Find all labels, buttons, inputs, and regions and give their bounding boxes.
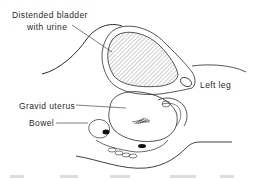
anatomy-diagram: Distended bladder with urine Left leg Gr… [0,0,257,180]
back-outline [76,142,232,168]
bowel-dark-1 [103,130,110,135]
label-bladder-line2: with urine [27,22,67,32]
bowel-loops [89,120,110,139]
label-left-leg: Left leg [200,80,231,90]
leader-bladder [72,25,112,52]
left-leg-line [192,65,246,72]
symphysis-oval [179,76,193,89]
leader-uterus [76,105,126,108]
bowel-dark-2 [138,144,146,148]
label-bowel: Bowel [29,118,54,128]
fetal-hair-mark [132,118,150,124]
gravid-uterus [109,92,177,142]
label-bladder-line1: Distended bladder [12,10,88,20]
label-gravid-uterus: Gravid uterus [19,101,75,111]
bowel-chain [108,148,137,158]
distended-bladder [108,32,178,86]
faint-caption-remnant [10,175,234,178]
